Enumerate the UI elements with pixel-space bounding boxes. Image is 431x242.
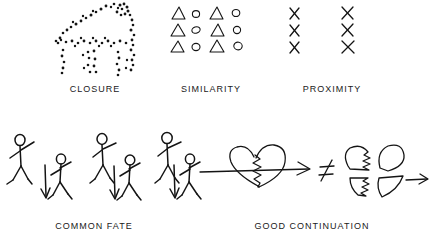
down-arrow-icon — [41, 165, 50, 198]
common-fate-stick-figures — [4, 132, 194, 214]
caption-common-fate: COMMON FATE — [14, 221, 174, 231]
stick-figure-with-arrow — [170, 154, 201, 199]
arrow-head-icon — [297, 162, 310, 175]
x-mark — [342, 24, 353, 36]
gestalt-principles-figure: CLOSURE SIMILARITY — [0, 0, 431, 242]
triangle-icon — [210, 40, 224, 52]
x-mark — [342, 7, 353, 19]
closure-dotted-house — [48, 2, 148, 78]
caption-proximity: PROXIMITY — [282, 84, 382, 94]
caption-closure: CLOSURE — [45, 84, 145, 94]
good-continuation-graphic — [198, 138, 430, 216]
stick-figure — [90, 134, 116, 183]
heart-right-lobe — [256, 145, 285, 187]
stick-figure — [155, 132, 181, 183]
heart-left-lobe — [230, 146, 258, 186]
x-mark — [290, 42, 299, 53]
stick-figure — [7, 135, 34, 185]
heart-fragment — [379, 145, 404, 171]
heart-fragment — [345, 146, 370, 170]
triangle-icon — [172, 7, 185, 19]
down-arrow-icon — [110, 166, 119, 199]
stick-figure-with-arrow — [41, 154, 72, 199]
panel-similarity — [168, 6, 254, 58]
x-mark — [342, 41, 354, 53]
similarity-shape-grid — [168, 6, 254, 58]
caption-similarity: SIMILARITY — [161, 84, 261, 94]
heart-fragment — [378, 176, 403, 197]
arrow-shaft — [406, 179, 427, 180]
triangle-icon — [211, 24, 224, 36]
triangle-icon — [171, 41, 184, 52]
x-mark — [290, 8, 299, 19]
triangle-icon — [210, 7, 223, 19]
panel-good-continuation — [198, 138, 430, 216]
stick-figure-with-arrow — [110, 155, 141, 200]
caption-good-continuation: GOOD CONTINUATION — [217, 221, 407, 231]
panel-common-fate — [4, 132, 194, 214]
x-mark — [290, 25, 299, 36]
panel-proximity — [288, 6, 368, 58]
panel-closure — [48, 2, 148, 78]
proximity-x-columns — [288, 6, 368, 58]
triangle-icon — [171, 24, 185, 36]
heart-fragment — [350, 178, 369, 196]
not-equals-sign — [319, 160, 334, 181]
